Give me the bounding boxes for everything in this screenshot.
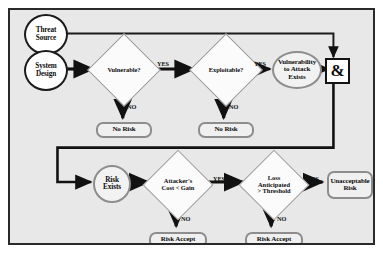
node-no-risk-1[interactable]: No Risk [96,122,152,138]
node-attacker-cost-decision[interactable]: Attacker's Cost < Gain [153,160,203,210]
and-gate-label: & [330,62,344,80]
node-threat-source[interactable]: Threat Source [24,14,68,55]
diagram-canvas: Threat Source System Design Vulnerable? … [10,10,373,243]
no-risk-2-label: No Risk [214,126,237,133]
edge-label-no-cost: NO [181,215,190,222]
risk-exists-line2: Exists [103,184,121,191]
node-vulnerable-decision[interactable]: Vulnerable? [98,44,150,96]
node-vulnerability-to-attack-exists[interactable]: Vulnerability to Attack Exists [272,51,322,89]
edge-label-yes-loss: YES [307,175,319,182]
risk-accept-2-label: Risk Accept [257,236,291,243]
no-risk-1-label: No Risk [112,126,135,133]
loss-line3: > Threshold [257,188,290,195]
node-loss-anticipated-decision[interactable]: Loss Anticipated > Threshold [249,160,299,210]
edge-label-no-exploitable: NO [229,103,238,110]
risk-accept-1-label: Risk Accept [161,236,195,243]
vuln-exists-line3: Exists [288,74,305,81]
edge-label-yes-exploitable: YES [254,60,266,67]
diagram-frame: Threat Source System Design Vulnerable? … [8,8,375,245]
system-design-label-line2: Design [36,71,56,78]
attacker-cost-label: Attacker's Cost < Gain [153,160,203,210]
unacceptable-line2: Risk [343,185,356,192]
exploitable-label: Exploitable? [200,44,252,96]
attacker-cost-line2: Cost < Gain [162,185,195,192]
edge-label-yes-cost: YES [213,175,225,182]
edge-label-yes-vulnerable: YES [157,60,169,67]
node-and-gate[interactable]: & [325,58,350,84]
node-system-design[interactable]: System Design [24,50,68,91]
loss-anticipated-label: Loss Anticipated > Threshold [249,160,299,210]
vulnerable-label: Vulnerable? [98,44,150,96]
node-risk-exists[interactable]: Risk Exists [93,165,131,203]
threat-source-label-line2: Source [36,35,56,42]
node-risk-accept-1[interactable]: Risk Accept [149,232,207,245]
node-risk-accept-2[interactable]: Risk Accept [245,232,303,245]
edge-label-no-vulnerable: NO [127,103,136,110]
node-exploitable-decision[interactable]: Exploitable? [200,44,252,96]
node-unacceptable-risk[interactable]: Unacceptable Risk [327,171,373,199]
edge-label-no-loss: NO [277,215,286,222]
node-no-risk-2[interactable]: No Risk [198,122,254,138]
